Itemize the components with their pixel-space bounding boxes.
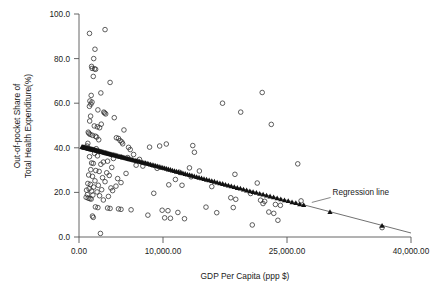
y-axis-title-line-2: Total Health Expenditure(%): [23, 74, 33, 178]
chart-canvas: 0.020.040.060.080.0100.0 0.0010,000.0025…: [0, 0, 437, 287]
y-tick-label: 100.0: [50, 10, 71, 19]
y-tick-label: 40.0: [54, 144, 70, 153]
y-tick-label: 0.0: [59, 233, 71, 242]
regression-line-label: Regression line: [333, 188, 390, 197]
scatter-plot-figure: 0.020.040.060.080.0100.0 0.0010,000.0025…: [0, 0, 437, 287]
x-tick-label: 40,000.00: [393, 247, 430, 256]
x-tick-label: 0.00: [71, 247, 87, 256]
y-tick-label: 60.0: [54, 99, 70, 108]
x-tick-label: 10,000.00: [145, 247, 182, 256]
y-axis-title-line-1: Out-of-pocket Share of: [12, 83, 22, 168]
y-tick-label: 80.0: [54, 55, 70, 64]
x-axis-title: GDP Per Capita (ppp $): [201, 271, 290, 281]
x-tick-label: 25,000.00: [269, 247, 306, 256]
y-tick-label: 20.0: [54, 188, 70, 197]
